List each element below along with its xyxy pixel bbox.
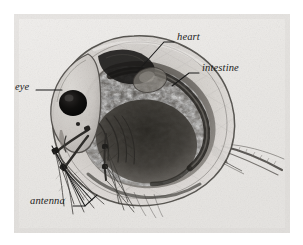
label-heart: heart (177, 32, 200, 43)
label-eye: eye (15, 82, 29, 93)
label-antenna: antenna (30, 196, 65, 207)
daphnia-figure: eye heart intestine antenna (0, 0, 303, 245)
label-intestine: intestine (202, 63, 239, 74)
